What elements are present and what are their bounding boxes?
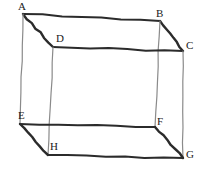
edge-layer [20,14,183,158]
edge-EH [20,124,48,155]
vertex-label-g: G [186,149,194,160]
edge-CG [182,51,183,158]
vertex-label-c: C [186,40,193,51]
edge-EF [20,124,155,127]
vertex-label-d: D [56,33,64,44]
edge-AD [23,14,53,47]
edge-BF [155,21,160,127]
edge-DH [48,47,53,155]
edge-BC [160,21,183,51]
cuboid-wireframe-svg [0,0,206,171]
vertex-label-e: E [18,110,25,121]
vertex-label-a: A [18,1,26,12]
edge-DC [53,47,183,51]
edge-FG [155,127,183,158]
vertex-label-b: B [156,8,163,19]
edge-AB [23,14,160,21]
vertex-label-h: H [50,141,58,152]
cuboid-figure: ABCDEFGH [0,0,206,171]
vertex-label-f: F [157,116,163,127]
edge-AE [20,14,23,124]
edge-HG [48,155,183,158]
